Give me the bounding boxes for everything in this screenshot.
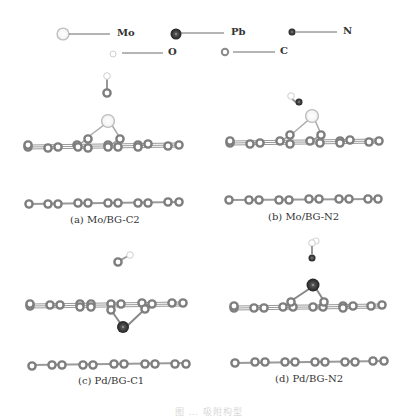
o-atom — [127, 252, 134, 259]
caption-d: (d) Pd/BG-N2 — [275, 373, 343, 384]
caption-b: (b) Mo/BG-N2 — [268, 211, 339, 222]
o-atom — [309, 240, 316, 247]
c-atom-icon — [222, 49, 228, 55]
n-atom — [309, 255, 316, 262]
legend-label-pb: Pb — [231, 26, 246, 37]
legend-pb — [171, 29, 225, 40]
n-atom-icon — [289, 29, 296, 36]
o-atom-icon — [110, 51, 116, 57]
pd-atom — [307, 279, 320, 292]
panel-a — [24, 73, 182, 208]
pb-atom-icon — [171, 29, 182, 40]
legend-label-n: N — [343, 25, 352, 36]
legend-o — [110, 51, 163, 57]
o-atom — [288, 93, 295, 100]
legend — [57, 28, 337, 57]
o-atom — [104, 73, 111, 80]
legend-mo — [57, 28, 110, 40]
legend-n — [289, 29, 338, 36]
legend-label-c: C — [280, 45, 288, 56]
mo-atom-icon — [57, 28, 69, 40]
n-atom — [296, 99, 303, 106]
pd-atom — [117, 321, 129, 333]
mo-atom — [306, 110, 319, 123]
caption-c: (c) Pd/BG-C1 — [78, 375, 144, 386]
figure-caption: 图 … 吸附构型 — [175, 405, 243, 418]
caption-a: (a) Mo/BG-C2 — [70, 214, 140, 225]
legend-label-mo: Mo — [117, 27, 135, 38]
legend-label-o: O — [168, 46, 177, 57]
panel-c — [26, 252, 189, 370]
mo-atom — [102, 115, 115, 128]
legend-c — [222, 49, 275, 55]
panel-d — [230, 240, 387, 367]
